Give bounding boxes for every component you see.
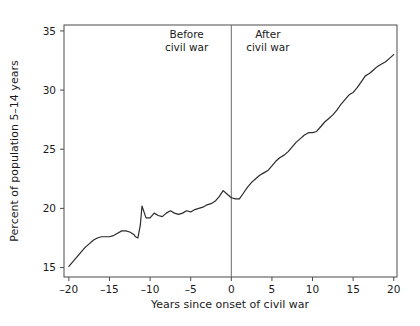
x-tick-label: –20 [60, 283, 79, 295]
annotation-before-line1: Before [169, 28, 203, 40]
y-tick-label: 30 [43, 84, 56, 96]
chart-figure: 1520253035 –20–15–10–505101520 Beforeciv… [0, 0, 420, 326]
x-tick-label: –5 [185, 283, 197, 295]
x-tick-label: 0 [228, 283, 235, 295]
annotation-after-line1: After [255, 28, 281, 40]
x-tick-label: 15 [346, 283, 359, 295]
x-tick-label: 5 [269, 283, 276, 295]
annotation-before: Beforecivil war [165, 28, 209, 53]
x-tick-label: 10 [306, 283, 319, 295]
y-axis-title: Percent of population 5–14 years [8, 60, 21, 242]
y-tick-label: 20 [43, 202, 56, 214]
annotation-after-line2: civil war [246, 41, 290, 53]
x-axis-title: Years since onset of civil war [150, 298, 310, 311]
line-chart: 1520253035 –20–15–10–505101520 Beforeciv… [0, 0, 420, 326]
y-tick-label: 25 [43, 143, 56, 155]
x-tick-label: –15 [100, 283, 119, 295]
y-tick-label: 35 [43, 25, 56, 37]
annotation-before-line2: civil war [165, 41, 209, 53]
x-tick-label: –10 [141, 283, 160, 295]
x-tick-label: 20 [387, 283, 400, 295]
y-tick-label: 15 [43, 261, 56, 273]
